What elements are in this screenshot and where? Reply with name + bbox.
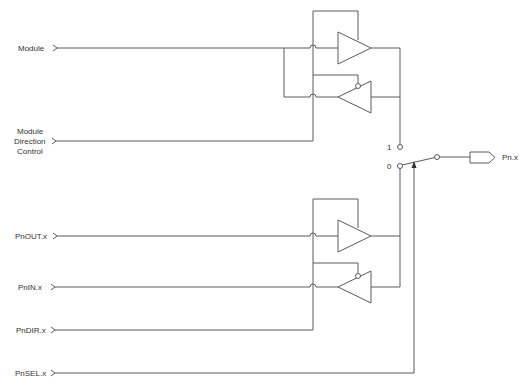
label-module-direction-line3: Control (17, 147, 43, 156)
module-buffer-block (56, 11, 400, 145)
mux-switch: 1 0 (55, 143, 470, 373)
mux-input-1-label: 1 (387, 143, 392, 152)
port-chevron-icon (51, 45, 57, 376)
schematic-canvas: Module Module Direction Control PnOUT.x … (0, 0, 528, 389)
label-module: Module (18, 44, 45, 53)
output-pad-icon (470, 152, 495, 163)
label-pnin: PnIN.x (18, 283, 42, 292)
mux-input-0-label: 0 (387, 162, 392, 171)
label-pndir: PnDIR.x (16, 326, 46, 335)
mux-pivot-icon (435, 155, 440, 160)
buffer-triangle-icon (338, 220, 371, 252)
mux-contact-1-icon (398, 145, 403, 150)
gpio-buffer-block (55, 168, 400, 330)
inversion-bubble-icon (356, 84, 361, 89)
mux-contact-0-icon (398, 164, 403, 169)
input-buffer-triangle-icon (338, 271, 371, 303)
buffer-triangle-icon (338, 32, 371, 64)
input-buffer-triangle-icon (338, 81, 371, 113)
label-module-direction-line1: Module (17, 127, 44, 136)
label-module-direction-line2: Direction (14, 137, 46, 146)
label-pnout: PnOUT.x (15, 232, 47, 241)
inversion-bubble-icon (356, 274, 361, 279)
label-pnsel: PnSEL.x (15, 369, 46, 378)
label-pin-output: Pn.x (502, 153, 518, 162)
